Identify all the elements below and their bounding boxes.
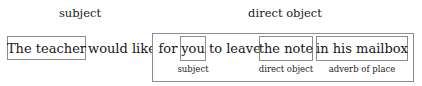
sentence-diagram-figure: subject The teacher would like direct ob… [0, 0, 422, 86]
adverbial-sublabel: adverb of place [316, 64, 408, 74]
adverbial-box: in his mailbox [316, 36, 408, 61]
embedded-subject-box: you [180, 36, 206, 61]
embedded-object-text: the note [259, 41, 314, 56]
embedded-subject-sublabel: subject [169, 64, 217, 74]
main-verb-text: would like [88, 41, 150, 56]
adverbial-text: in his mailbox [316, 41, 408, 56]
complementizer-text: for [157, 41, 179, 56]
direct-object-header: direct object [225, 7, 345, 20]
main-subject-text: The teacher [7, 41, 86, 56]
main-subject-box: The teacher [7, 36, 86, 60]
main-subject-header: subject [30, 7, 130, 20]
infinitive-verb-text: to leave [209, 41, 257, 56]
embedded-object-box: the note [259, 36, 313, 61]
embedded-object-sublabel: direct object [256, 64, 316, 74]
embedded-subject-text: you [181, 41, 205, 56]
